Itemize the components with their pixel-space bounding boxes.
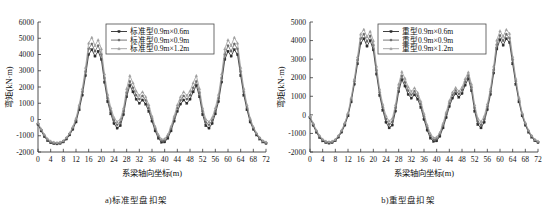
data-point-marker — [135, 98, 137, 100]
data-point-marker — [385, 118, 387, 120]
x-axis-title: 系梁轴向坐标(m) — [394, 168, 454, 178]
data-point-marker — [410, 97, 412, 99]
y-tick-label: 5000 — [19, 34, 34, 43]
data-point-marker — [37, 121, 40, 124]
x-tick-label: 68 — [250, 155, 258, 164]
data-point-marker — [496, 39, 499, 42]
data-point-marker — [211, 122, 213, 124]
data-point-marker — [369, 35, 371, 37]
data-point-marker — [189, 98, 191, 100]
data-point-marker — [461, 92, 463, 94]
data-point-marker — [407, 93, 409, 95]
data-point-marker — [391, 124, 393, 126]
data-point-marker — [467, 71, 470, 74]
x-tick-label: 8 — [61, 155, 65, 164]
x-tick-label: 32 — [136, 155, 144, 164]
data-point-marker — [390, 30, 392, 32]
data-point-marker — [502, 40, 504, 42]
data-point-marker — [369, 30, 372, 33]
data-point-marker — [208, 124, 210, 126]
data-point-marker — [363, 28, 366, 31]
data-point-marker — [94, 55, 96, 57]
data-point-marker — [366, 45, 368, 47]
data-point-marker — [205, 125, 207, 127]
x-tick-label: 20 — [370, 155, 378, 164]
data-point-marker — [388, 127, 390, 129]
data-point-marker — [186, 102, 188, 104]
data-point-marker — [91, 36, 94, 39]
data-point-marker — [132, 91, 134, 93]
y-axis-title: 弯矩(kN·m) — [4, 66, 14, 107]
x-tick-label: 52 — [199, 155, 207, 164]
x-tick-label: 44 — [446, 155, 454, 164]
data-point-marker — [100, 47, 103, 50]
x-tick-label: 0 — [308, 155, 312, 164]
chart-panel-b: -2000-1000010002000300040005000048121620… — [272, 0, 544, 213]
data-point-marker — [227, 38, 230, 41]
y-tick-label: 3000 — [19, 66, 34, 75]
x-tick-label: 24 — [382, 155, 390, 164]
data-point-marker — [233, 43, 235, 45]
data-point-marker — [388, 123, 390, 125]
data-point-marker — [233, 49, 235, 51]
data-point-marker — [413, 90, 415, 92]
x-tick-label: 8 — [333, 155, 337, 164]
data-point-marker — [182, 90, 185, 93]
data-point-marker — [372, 39, 375, 42]
data-point-marker — [407, 86, 410, 89]
data-point-marker — [141, 95, 143, 97]
y-tick-label: -2000 — [288, 148, 306, 157]
y-tick-label: -1000 — [16, 131, 34, 140]
x-tick-label: 64 — [509, 155, 517, 164]
y-tick-label: 5000 — [291, 18, 306, 27]
y-tick-label: 4000 — [19, 50, 34, 59]
chart-panel-a: -2000-1000010002000300040005000600004812… — [0, 0, 272, 213]
data-point-marker — [118, 39, 120, 41]
chart-a-caption: a)标准型盘扣架 — [0, 193, 272, 205]
x-tick-label: 12 — [344, 155, 352, 164]
data-point-marker — [208, 127, 210, 129]
x-tick-label: 16 — [357, 155, 365, 164]
x-tick-label: 48 — [458, 155, 466, 164]
x-tick-label: 64 — [237, 155, 245, 164]
data-point-marker — [135, 90, 138, 93]
x-tick-label: 56 — [484, 155, 492, 164]
data-point-marker — [97, 44, 99, 46]
y-tick-label: 3000 — [291, 55, 306, 64]
y-tick-label: -2000 — [16, 148, 34, 157]
y-axis-title: 弯矩(kN·m) — [276, 66, 286, 107]
data-point-marker — [138, 98, 140, 100]
data-point-marker — [366, 40, 368, 42]
data-point-marker — [369, 39, 371, 41]
data-point-marker — [480, 127, 482, 129]
y-tick-label: 0 — [302, 111, 306, 120]
x-axis-title: 系梁轴向坐标(m) — [122, 168, 182, 178]
data-point-marker — [363, 33, 365, 35]
data-point-marker — [141, 90, 144, 93]
data-point-marker — [94, 50, 96, 52]
data-point-marker — [499, 30, 502, 33]
data-point-marker — [502, 44, 504, 46]
data-point-marker — [233, 36, 236, 39]
x-tick-label: 0 — [36, 155, 40, 164]
chart-b-caption: b)重型盘扣架 — [272, 193, 544, 205]
x-tick-label: 72 — [262, 155, 270, 164]
chart-a-svg: -2000-1000010002000300040005000600004812… — [0, 0, 272, 213]
data-point-marker — [429, 137, 431, 139]
data-point-marker — [132, 87, 134, 89]
data-point-marker — [141, 99, 143, 101]
data-point-marker — [116, 124, 118, 126]
legend-label: 标准型0.9m×0.9m — [130, 35, 189, 45]
data-point-marker — [390, 39, 392, 41]
y-tick-label: 1000 — [291, 92, 306, 101]
figure-container: -2000-1000010002000300040005000600004812… — [0, 0, 544, 213]
y-tick-label: 6000 — [19, 18, 34, 27]
x-tick-label: 48 — [186, 155, 194, 164]
data-point-marker — [477, 120, 479, 122]
x-tick-label: 4 — [49, 155, 53, 164]
x-tick-label: 60 — [224, 155, 232, 164]
data-point-marker — [129, 74, 132, 77]
legend-label: 重型0.9m×1.2m — [402, 44, 453, 53]
data-point-marker — [189, 90, 192, 93]
data-point-marker — [116, 127, 118, 129]
